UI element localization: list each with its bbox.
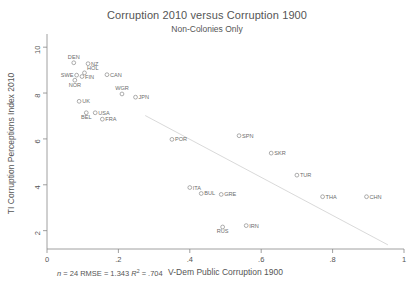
point-label: WGR xyxy=(115,85,129,91)
point-label: SWE xyxy=(61,72,74,78)
y-tick-label: 10 xyxy=(33,46,42,54)
stat-rmse: RMSE = 1.343 xyxy=(80,269,131,278)
point-marker xyxy=(237,134,241,138)
point-label: JPN xyxy=(139,94,150,100)
data-point: THA xyxy=(321,194,337,200)
point-marker xyxy=(170,137,174,141)
point-label: BEL xyxy=(81,114,92,120)
data-point: BEL xyxy=(81,111,92,120)
point-label: IRN xyxy=(249,223,259,229)
data-point: JPN xyxy=(134,94,149,100)
point-label: SKR xyxy=(274,150,286,156)
point-label: CHN xyxy=(370,194,382,200)
point-label: BUL xyxy=(204,190,215,196)
data-point: SKR xyxy=(269,150,285,156)
point-label: HOL xyxy=(87,65,99,71)
point-marker xyxy=(75,73,79,77)
point-label: TUR xyxy=(300,172,312,178)
point-label: FIN xyxy=(85,74,94,80)
y-tick-label: 8 xyxy=(33,94,42,98)
data-point: UK xyxy=(77,98,90,104)
data-point: BUL xyxy=(199,190,215,196)
chart-container: Corruption 2010 versus Corruption 1900 N… xyxy=(0,0,414,292)
stat-n-value: = 24 xyxy=(61,269,80,278)
data-point: GRE xyxy=(219,191,236,197)
point-label: NOR xyxy=(69,82,81,88)
point-label: POR xyxy=(175,136,187,142)
y-tick-label: 2 xyxy=(33,231,42,235)
data-point: CAN xyxy=(105,72,122,78)
data-point: NOR xyxy=(69,78,81,87)
point-label: UK xyxy=(82,98,90,104)
point-label: THA xyxy=(326,194,337,200)
stat-r2-value: = .704 xyxy=(140,269,163,278)
point-marker xyxy=(219,193,223,197)
point-marker xyxy=(93,111,97,115)
data-point: USA xyxy=(93,110,110,116)
scatter-plot: 2468100.2.4.6.81TI Corruption Perception… xyxy=(0,0,414,292)
data-point: RUS xyxy=(217,225,229,234)
point-marker xyxy=(269,151,273,155)
data-point: SPN xyxy=(237,133,253,139)
point-marker xyxy=(295,173,299,177)
point-marker xyxy=(134,95,138,99)
x-tick-label: .4 xyxy=(187,255,193,264)
y-tick-label: 6 xyxy=(33,139,42,143)
data-point: DEN xyxy=(68,54,80,65)
point-label: CAN xyxy=(110,72,122,78)
point-marker xyxy=(321,195,325,199)
point-marker xyxy=(365,195,369,199)
y-tick-label: 4 xyxy=(33,185,42,189)
data-point: POR xyxy=(170,136,187,142)
data-point: IRN xyxy=(244,223,259,229)
x-tick-label: 1 xyxy=(402,255,406,264)
point-marker xyxy=(72,61,76,65)
data-point: TUR xyxy=(295,172,311,178)
stats-note: n = 24 RMSE = 1.343 R2 = .704 xyxy=(57,268,163,278)
regression-line xyxy=(145,116,388,245)
point-marker xyxy=(120,92,124,96)
point-label: RUS xyxy=(217,228,229,234)
data-point: WGR xyxy=(115,85,129,96)
point-marker xyxy=(80,75,84,79)
point-marker xyxy=(199,192,203,196)
data-point: FRA xyxy=(100,116,116,122)
data-point: SWE xyxy=(61,72,79,78)
point-label: SPN xyxy=(242,133,254,139)
x-tick-label: .2 xyxy=(115,255,121,264)
point-label: ITA xyxy=(193,185,202,191)
y-axis-title: TI Corruption Perceptions Index 2010 xyxy=(6,73,16,215)
point-marker xyxy=(105,73,109,77)
x-tick-label: .6 xyxy=(258,255,264,264)
data-point: ITA xyxy=(188,185,201,191)
data-point: FIN xyxy=(80,74,94,80)
point-marker xyxy=(77,99,81,103)
x-tick-label: 0 xyxy=(45,255,49,264)
point-label: GRE xyxy=(224,191,236,197)
data-point: CHN xyxy=(365,194,382,200)
point-label: USA xyxy=(98,110,110,116)
point-marker xyxy=(100,117,104,121)
x-axis-title: V-Dem Public Corruption 1900 xyxy=(168,267,283,277)
point-marker xyxy=(244,224,248,228)
point-marker xyxy=(188,186,192,190)
point-label: DEN xyxy=(68,54,80,60)
point-label: FRA xyxy=(105,116,116,122)
x-tick-label: .8 xyxy=(329,255,335,264)
